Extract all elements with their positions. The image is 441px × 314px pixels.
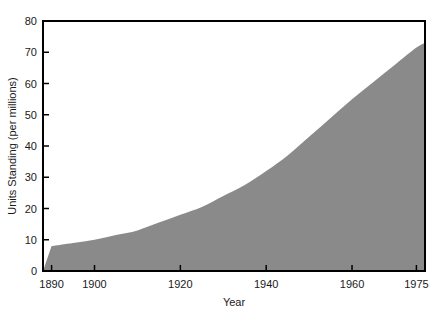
y-axis-tick-label: 40 <box>25 140 37 152</box>
y-axis-tick-label: 70 <box>25 46 37 58</box>
x-axis-tick-label: 1890 <box>39 278 63 290</box>
y-axis-tick-label: 60 <box>25 78 37 90</box>
x-axis-tick-labels: 189019001920194019601975 <box>39 278 428 290</box>
chart-figure: 01020304050607080 1890190019201940196019… <box>0 0 441 314</box>
y-axis-tick-label: 0 <box>31 265 37 277</box>
x-axis-tick-label: 1900 <box>82 278 106 290</box>
y-axis-title: Units Standing (per millions) <box>6 77 18 215</box>
y-axis-tick-label: 50 <box>25 109 37 121</box>
x-axis-tick-label: 1940 <box>254 278 278 290</box>
y-axis-tick-label: 30 <box>25 171 37 183</box>
y-axis-tick-label: 20 <box>25 203 37 215</box>
y-axis-tick-label: 80 <box>25 15 37 27</box>
x-axis-title: Year <box>223 296 246 308</box>
x-axis-tick-label: 1960 <box>340 278 364 290</box>
area-chart: 01020304050607080 1890190019201940196019… <box>0 0 441 314</box>
x-axis-tick-label: 1975 <box>404 278 428 290</box>
y-axis-tick-labels: 01020304050607080 <box>25 15 37 277</box>
x-axis-tick-label: 1920 <box>168 278 192 290</box>
y-axis-tick-label: 10 <box>25 234 37 246</box>
